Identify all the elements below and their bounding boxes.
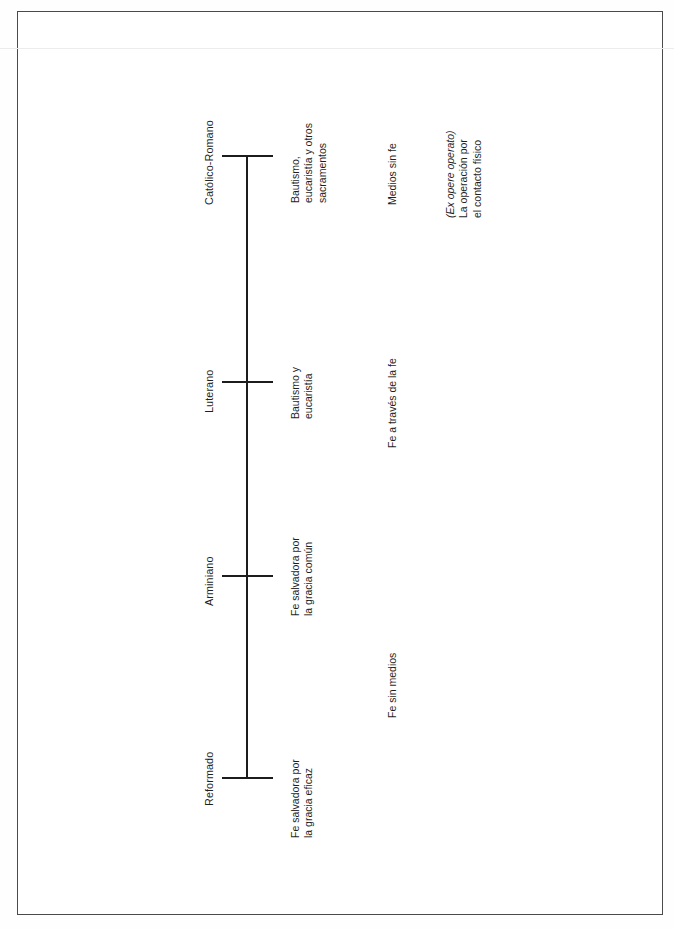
mode-line-1: Fe a través de la fe [386, 358, 399, 448]
position-label-luterano: Luterano [203, 370, 216, 413]
means-line-1: Fe salvadora por [289, 759, 302, 838]
means-line-1: Fe salvadora por [289, 537, 302, 616]
note-block-catolico-romano: (Ex opere operato) La operación por el c… [444, 130, 484, 218]
means-line-2: la gracia eficaz [302, 759, 315, 838]
position-label-reformado: Reformado [203, 752, 216, 806]
means-line-3: sacramentos [316, 123, 329, 203]
axis-tick-catolico-romano [222, 155, 273, 157]
means-line-2: eucaristía [302, 367, 315, 419]
note-line-1: (Ex opere operato) [444, 130, 457, 218]
note-line-3: el contacto físico [471, 130, 484, 218]
note-line-2: La operación por [457, 130, 470, 218]
mode-block-luterano: Fe a través de la fe [386, 358, 399, 448]
axis-tick-reformado [222, 777, 273, 779]
means-block-catolico-romano: Bautismo, eucaristía y otros sacramentos [289, 123, 329, 203]
position-label-arminiano: Arminiano [203, 556, 216, 606]
mode-block-arminiano: Fe sin medios [386, 653, 399, 718]
mode-line-1: Medios sin fe [386, 143, 399, 205]
scanned-page: Católico-Romano Bautismo, eucaristía y o… [0, 0, 674, 929]
position-label-catolico-romano: Católico-Romano [203, 120, 216, 205]
mode-line-1: Fe sin medios [386, 653, 399, 718]
means-block-arminiano: Fe salvadora por la gracia común [289, 537, 316, 616]
axis-tick-luterano [222, 381, 273, 383]
axis-tick-arminiano [222, 575, 273, 577]
means-line-2: la gracia común [302, 537, 315, 616]
spectrum-axis-line [246, 155, 248, 779]
means-line-1: Bautismo, [289, 123, 302, 203]
means-line-1: Bautismo y [289, 367, 302, 419]
means-block-luterano: Bautismo y eucaristía [289, 367, 316, 419]
mode-block-catolico-romano: Medios sin fe [386, 143, 399, 205]
means-line-2: eucaristía y otros [302, 123, 315, 203]
means-block-reformado: Fe salvadora por la gracia eficaz [289, 759, 316, 838]
theology-spectrum-diagram: Católico-Romano Bautismo, eucaristía y o… [0, 0, 674, 929]
